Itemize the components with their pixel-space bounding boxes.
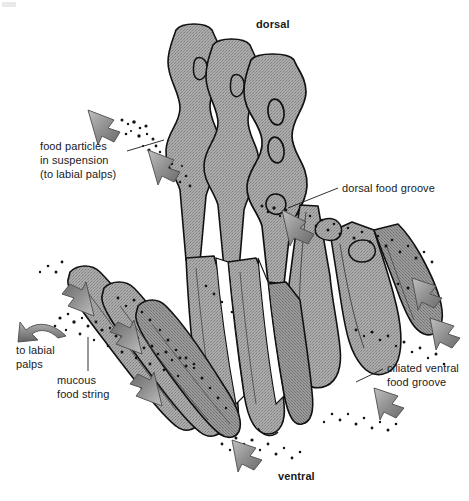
label-ciliated-ventral-line2: food groove	[387, 376, 446, 390]
gill-diagram-illustration	[0, 0, 469, 501]
label-food-particles-line3: (to labial palps)	[40, 168, 116, 182]
label-mucous-food-string-line2: food string	[57, 388, 109, 402]
label-dorsal-food-groove: dorsal food groove	[342, 182, 435, 196]
label-to-labial-palps-line1: to labial	[16, 344, 55, 358]
label-food-particles-line2: in suspension	[40, 154, 109, 168]
flow-arrow-curved-to-labial-palps	[18, 322, 66, 342]
label-food-particles-line1: food particles	[40, 140, 107, 154]
label-mucous-food-string-line1: mucous	[57, 374, 96, 388]
flow-arrow-bottom-center	[232, 440, 262, 472]
label-ciliated-ventral-line1: ciliated ventral	[387, 362, 459, 376]
label-ventral: ventral	[278, 470, 315, 484]
figure-container: dorsal ventral food particles in suspens…	[0, 0, 469, 501]
label-to-labial-palps-line2: palps	[16, 358, 43, 372]
flow-arrow-right-lower	[430, 318, 460, 350]
label-dorsal: dorsal	[256, 18, 290, 32]
particle-trail-bottom-right	[323, 413, 398, 432]
leader-line-food-particles	[127, 140, 164, 151]
flow-arrow-bottom-right	[374, 388, 404, 420]
